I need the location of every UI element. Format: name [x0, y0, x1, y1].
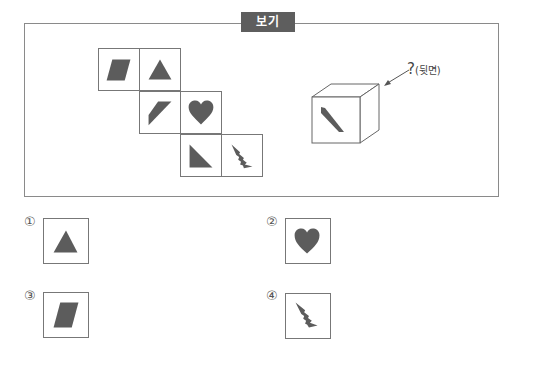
tree-spike-icon: [286, 294, 330, 338]
back-face-text: (뒷면): [415, 65, 441, 76]
question-mark: ?: [407, 60, 415, 78]
option-number: ①: [24, 214, 36, 229]
option-1-box[interactable]: [43, 218, 89, 264]
parallelogram-icon: [99, 49, 139, 90]
option-2-box[interactable]: [285, 218, 331, 264]
example-label-tag: 보기: [241, 12, 295, 32]
heart-icon: [286, 219, 330, 263]
net-cell-right-triangle: [180, 134, 222, 177]
option-number: ③: [24, 288, 36, 303]
triangle-icon: [44, 219, 88, 263]
option-4-box[interactable]: [285, 293, 331, 339]
option-number: ④: [266, 288, 278, 303]
right-triangle-icon: [181, 135, 221, 176]
net-cell-parallelogram: [98, 48, 140, 91]
parallelogram-icon: [44, 293, 88, 337]
slanted-trapezoid-icon: [140, 92, 180, 133]
net-cell-heart: [180, 91, 222, 134]
net-cell-slanted-trapezoid: [139, 91, 181, 134]
tree-spike-icon: [222, 135, 262, 176]
back-face-question-label: ?(뒷면): [407, 60, 441, 78]
triangle-icon: [140, 49, 180, 90]
option-number: ②: [266, 214, 278, 229]
cube-diagram: [310, 80, 390, 150]
option-3-box[interactable]: [43, 292, 89, 338]
net-cell-triangle: [139, 48, 181, 91]
heart-icon: [181, 92, 221, 133]
net-cell-tree-spike: [221, 134, 263, 177]
